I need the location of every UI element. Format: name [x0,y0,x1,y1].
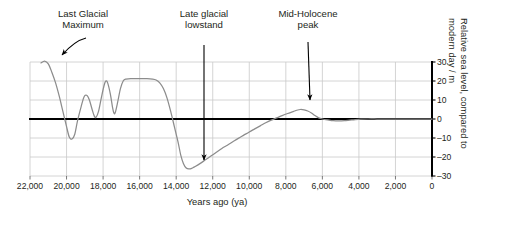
x-tick-label: 12,000 [200,181,226,191]
x-tick-label: 14,000 [163,181,189,191]
x-tick-label: 6,000 [312,181,334,191]
x-tick-label: 16,000 [126,181,152,191]
x-tick-label: 20,000 [53,181,79,191]
y-axis-title: Relative sea level, compared to modern d… [446,18,470,178]
sea-level-curve [41,61,432,169]
y-tick-label: 0 [437,114,442,124]
x-tick-label: 0 [430,181,435,191]
annotation-arrows [62,38,310,160]
x-tick-label: 22,000 [17,181,43,191]
x-axis-title: Years ago (ya) [0,196,434,207]
annotation-last-glacial-maximum: Last Glacial Maximum [40,8,126,30]
sea-level-chart: Last Glacial Maximum Late glacial lowsta… [0,0,529,228]
x-tick-label: 8,000 [275,181,297,191]
x-tick-label: 18,000 [90,181,116,191]
x-tick-label: 10,000 [236,181,262,191]
x-axis-tick-marks [30,176,432,180]
x-tick-label: 2,000 [385,181,407,191]
x-tick-label: 4,000 [348,181,370,191]
annotation-late-glacial-lowstand: Late glacial lowstand [160,8,248,30]
annotation-mid-holocene-peak: Mid-Holocene peak [265,8,351,30]
